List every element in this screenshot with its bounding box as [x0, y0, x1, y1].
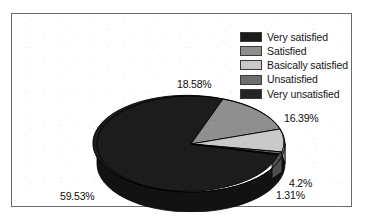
chart-frame: 59.53% 18.58% 16.39% 4.2% 1.31% Very sat… — [11, 13, 352, 207]
legend-label-basically-satisfied: Basically satisfied — [267, 60, 348, 71]
legend-swatch-basically-satisfied — [240, 60, 262, 70]
data-label-basically-satisfied: 16.39% — [284, 112, 318, 124]
legend-swatch-unsatisfied — [240, 75, 262, 85]
legend-swatch-very-unsatisfied — [240, 89, 262, 99]
legend-item-unsatisfied: Unsatisfied — [240, 73, 364, 87]
legend-item-basically-satisfied: Basically satisfied — [240, 58, 364, 72]
legend-label-very-satisfied: Very satisfied — [267, 32, 328, 43]
data-label-very-unsatisfied: 1.31% — [276, 189, 305, 201]
legend-label-very-unsatisfied: Very unsatisfied — [267, 89, 340, 100]
chart-screenshot: 59.53% 18.58% 16.39% 4.2% 1.31% Very sat… — [0, 0, 369, 221]
legend-item-very-satisfied: Very satisfied — [240, 30, 364, 44]
legend-item-satisfied: Satisfied — [240, 44, 364, 58]
pie-top-face — [93, 95, 284, 191]
data-label-unsatisfied: 4.2% — [289, 177, 312, 189]
chart-legend: Very satisfied Satisfied Basically satis… — [240, 30, 364, 101]
data-label-very-satisfied: 59.53% — [60, 190, 94, 202]
data-label-satisfied: 18.58% — [177, 78, 211, 90]
legend-swatch-satisfied — [240, 46, 262, 56]
legend-label-unsatisfied: Unsatisfied — [267, 74, 318, 85]
legend-swatch-very-satisfied — [240, 32, 262, 42]
legend-label-satisfied: Satisfied — [267, 46, 306, 57]
legend-item-very-unsatisfied: Very unsatisfied — [240, 87, 364, 101]
